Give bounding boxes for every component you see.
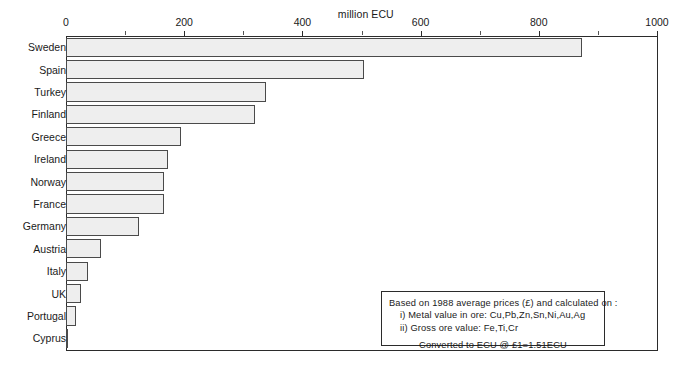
bar-greece bbox=[66, 127, 181, 146]
category-label-norway: Norway bbox=[30, 177, 66, 188]
bar-turkey bbox=[66, 82, 266, 101]
bar-france bbox=[66, 194, 164, 213]
category-label-ireland: Ireland bbox=[34, 154, 66, 165]
note-line-2: i) Metal value in ore: Cu,Pb,Zn,Sn,Ni,Au… bbox=[389, 309, 597, 321]
category-label-austria: Austria bbox=[33, 244, 66, 255]
category-label-sweden: Sweden bbox=[28, 42, 66, 53]
category-label-spain: Spain bbox=[39, 65, 66, 76]
category-label-italy: Italy bbox=[47, 266, 66, 277]
note-line-1: Based on 1988 average prices (£) and cal… bbox=[389, 297, 597, 309]
category-label-portugal: Portugal bbox=[27, 311, 66, 322]
axis-line-right bbox=[657, 36, 658, 350]
x-tick-mark-minor-500 bbox=[362, 31, 363, 35]
category-label-france: France bbox=[33, 199, 66, 210]
bar-chart: million ECU 02004006008001000 SwedenSpai… bbox=[0, 0, 674, 375]
axis-unit-label: million ECU bbox=[338, 8, 394, 20]
x-tick-label-0: 0 bbox=[63, 16, 69, 28]
bar-sweden bbox=[66, 38, 582, 57]
x-tick-mark-minor-100 bbox=[125, 31, 126, 35]
bar-portugal bbox=[66, 306, 76, 325]
category-label-germany: Germany bbox=[23, 221, 66, 232]
category-label-greece: Greece bbox=[32, 132, 66, 143]
x-tick-mark-minor-900 bbox=[598, 31, 599, 35]
bar-italy bbox=[66, 262, 88, 281]
x-tick-mark-minor-700 bbox=[480, 31, 481, 35]
bar-spain bbox=[66, 60, 364, 79]
x-tick-label-600: 600 bbox=[412, 16, 430, 28]
note-box: Based on 1988 average prices (£) and cal… bbox=[381, 291, 605, 346]
category-label-turkey: Turkey bbox=[34, 87, 66, 98]
note-line-3: ii) Gross ore value: Fe,Ti,Cr bbox=[389, 322, 597, 334]
x-tick-label-200: 200 bbox=[175, 16, 193, 28]
bar-uk bbox=[66, 284, 81, 303]
x-tick-label-400: 400 bbox=[294, 16, 312, 28]
bar-finland bbox=[66, 105, 255, 124]
x-tick-mark-minor-300 bbox=[243, 31, 244, 35]
x-tick-label-800: 800 bbox=[530, 16, 548, 28]
category-label-finland: Finland bbox=[32, 109, 66, 120]
bar-cyprus bbox=[66, 329, 68, 348]
bar-norway bbox=[66, 172, 164, 191]
note-line-4: Converted to ECU @ £1=1.51ECU bbox=[389, 334, 597, 351]
x-tick-label-1000: 1000 bbox=[645, 16, 668, 28]
category-label-uk: UK bbox=[51, 289, 66, 300]
bar-austria bbox=[66, 239, 101, 258]
bar-ireland bbox=[66, 150, 168, 169]
category-label-cyprus: Cyprus bbox=[33, 333, 66, 344]
bar-germany bbox=[66, 217, 139, 236]
